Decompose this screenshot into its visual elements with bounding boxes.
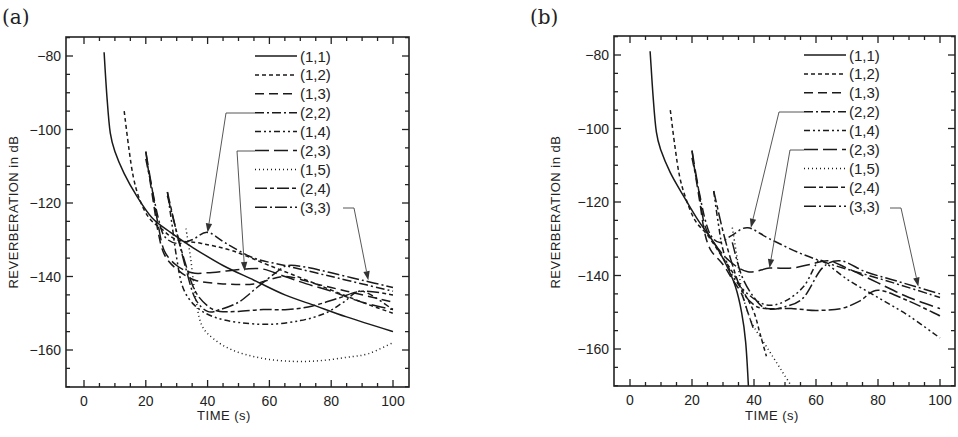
curves xyxy=(104,52,393,361)
annotation-arrow-2-3 xyxy=(237,151,255,262)
plot-frame xyxy=(66,37,409,387)
panel-b-y-axis-label: REVERBERATION in dB xyxy=(548,135,563,288)
legend-label: (2,2) xyxy=(849,103,880,120)
panel-b-tag: (b) xyxy=(530,5,558,29)
series-1-1 xyxy=(650,51,748,386)
legend-label: (2,3) xyxy=(849,141,880,158)
y-tick-label: −80 xyxy=(37,48,61,64)
legend-label: (1,1) xyxy=(300,48,331,65)
arrowhead-icon xyxy=(206,223,212,232)
y-tick-label: −160 xyxy=(577,341,609,357)
x-tick-label: 100 xyxy=(928,392,952,408)
legend-label: (2,4) xyxy=(849,179,880,196)
legend: (1,1)(1,2)(1,3)(2,2)(1,4)(2,3)(1,5)(2,4)… xyxy=(255,48,331,216)
series-2-3 xyxy=(692,151,940,309)
series-1-1 xyxy=(104,52,393,331)
series-1-4 xyxy=(167,192,393,324)
x-tick-label: 40 xyxy=(746,392,762,408)
x-tick-label: 40 xyxy=(200,393,216,409)
legend: (1,1)(1,2)(1,3)(2,2)(1,4)(2,3)(1,5)(2,4)… xyxy=(804,47,880,215)
y-tick-label: −100 xyxy=(29,122,61,138)
x-tick-label: 60 xyxy=(808,392,824,408)
x-tick-label: 80 xyxy=(870,392,886,408)
legend-label: (3,3) xyxy=(300,199,331,216)
figure: (a) TIME (s) REVERBERATION in dB 0204060… xyxy=(0,0,958,437)
x-tick-label: 80 xyxy=(323,393,339,409)
panel-a-y-axis-label: REVERBERATION in dB xyxy=(6,135,21,288)
annotation-arrow-2-2 xyxy=(209,113,255,224)
annotation-arrow-3-3 xyxy=(343,208,367,271)
x-tick-label: 100 xyxy=(381,393,405,409)
y-tick-label: −80 xyxy=(585,47,609,63)
legend-label: (2,3) xyxy=(300,142,331,159)
y-tick-label: −120 xyxy=(577,194,609,210)
legend-label: (1,2) xyxy=(300,66,331,83)
y-tick-label: −100 xyxy=(577,121,609,137)
annotation-arrow-2-2 xyxy=(753,112,804,219)
series-2-4 xyxy=(714,191,940,316)
legend-label: (3,3) xyxy=(849,198,880,215)
series-1-2 xyxy=(670,110,766,356)
legend-label: (1,3) xyxy=(300,85,331,102)
legend-label: (1,2) xyxy=(849,65,880,82)
legend-label: (1,4) xyxy=(849,122,880,139)
arrowhead-icon xyxy=(913,277,919,287)
curves xyxy=(650,51,940,386)
x-tick-label: 20 xyxy=(684,392,700,408)
panel-a-tag: (a) xyxy=(2,5,30,29)
legend-label: (2,4) xyxy=(300,180,331,197)
y-tick-label: −140 xyxy=(577,268,609,284)
arrowhead-icon xyxy=(363,271,369,281)
legend-label: (1,5) xyxy=(300,161,331,178)
annotation-arrow-3-3 xyxy=(890,208,916,278)
series-1-3 xyxy=(146,152,393,303)
panel-a-x-axis-label: TIME (s) xyxy=(197,408,251,423)
arrowhead-icon xyxy=(768,259,774,268)
legend-label: (1,1) xyxy=(849,47,880,64)
x-tick-label: 20 xyxy=(138,393,154,409)
series-3-3 xyxy=(732,242,940,309)
y-tick-label: −120 xyxy=(29,195,61,211)
series-1-4 xyxy=(714,191,940,338)
panel-b-chart: (b) TIME (s) REVERBERATION in dB 0204060… xyxy=(530,5,955,423)
legend-label: (1,4) xyxy=(300,123,331,140)
arrowhead-icon xyxy=(750,218,756,228)
annotation-arrow-2-3 xyxy=(771,150,804,259)
legend-label: (2,2) xyxy=(300,104,331,121)
legend-label: (1,3) xyxy=(849,84,880,101)
x-tick-label: 0 xyxy=(80,393,88,409)
x-tick-label: 0 xyxy=(626,392,634,408)
y-tick-label: −160 xyxy=(29,342,61,358)
legend-label: (1,5) xyxy=(849,160,880,177)
x-tick-label: 60 xyxy=(262,393,278,409)
y-tick-label: −140 xyxy=(29,269,61,285)
panel-b-x-axis-label: TIME (s) xyxy=(745,408,799,423)
panel-a-chart: (a) TIME (s) REVERBERATION in dB 0204060… xyxy=(2,5,409,423)
plot-frame xyxy=(614,36,955,386)
